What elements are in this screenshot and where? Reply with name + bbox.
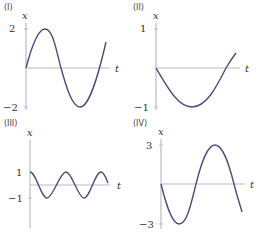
y-axis-label: x	[22, 10, 28, 21]
y-axis-label: x	[27, 127, 33, 138]
panel-2: (II) x t 1 −1	[133, 3, 250, 113]
tick-label-bottom: −2	[3, 102, 18, 113]
tick-label-top: 3	[146, 140, 152, 151]
panel-label: (II)	[133, 3, 144, 12]
tick-label-top: 2	[9, 23, 15, 34]
tick-label-top: 1	[16, 167, 22, 178]
tick-label-bottom: −1	[134, 102, 149, 113]
panel-label: (I)	[4, 3, 13, 12]
oscillation-graphs: (I) x t 2 −2 (II) x t 1 −1 (III) x t 1 −…	[0, 0, 260, 241]
panel-label: (III)	[4, 119, 17, 128]
curve	[156, 53, 236, 107]
panel-4: (IV) x t 3 −3	[133, 119, 255, 230]
y-axis-label: x	[153, 10, 159, 21]
x-axis-label: t	[245, 63, 250, 74]
panel-1: (I) x t 2 −2	[3, 3, 120, 113]
tick-label-bottom: −3	[139, 219, 154, 230]
tick-label-top: 1	[140, 23, 146, 34]
x-axis-label: t	[250, 179, 255, 190]
panel-3: (III) x t 1 −1	[4, 119, 122, 228]
x-axis-label: t	[117, 180, 122, 191]
tick-label-bottom: −1	[8, 193, 23, 204]
y-axis-label: x	[158, 126, 164, 137]
x-axis-label: t	[115, 63, 120, 74]
panel-label: (IV)	[133, 119, 147, 128]
